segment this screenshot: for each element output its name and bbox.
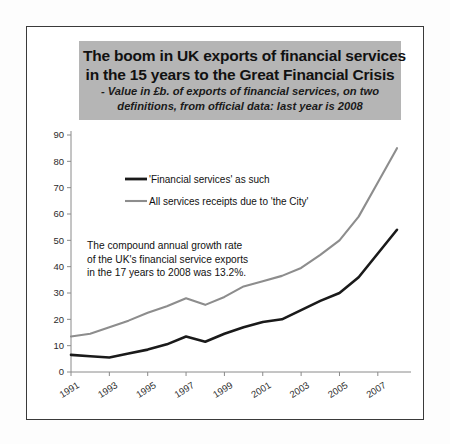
- x-tick-label: 2005: [326, 379, 350, 400]
- y-tick-label: 30: [53, 287, 64, 298]
- y-tick-label: 70: [53, 182, 64, 193]
- line-chart: 0102030405060708090 19911993199519971999…: [27, 27, 425, 421]
- x-tick-label: 1995: [134, 379, 158, 400]
- legend-label-0: 'Financial services' as such: [149, 174, 270, 185]
- x-axis-ticks: 199119931995199719992001200320052007: [57, 372, 388, 400]
- y-tick-label: 20: [53, 314, 64, 325]
- y-tick-label: 40: [53, 261, 64, 272]
- x-tick-label: 1993: [96, 379, 120, 400]
- plot-area: 0102030405060708090 19911993199519971999…: [27, 27, 425, 421]
- y-tick-label: 10: [53, 340, 64, 351]
- legend-label-1: All services receipts due to 'the City': [149, 196, 309, 207]
- y-tick-label: 90: [53, 129, 64, 140]
- y-axis-ticks: 0102030405060708090: [53, 129, 71, 377]
- growth-rate-annotation: The compound annual growth rateof the UK…: [87, 240, 248, 278]
- x-tick-label: 2003: [287, 379, 311, 400]
- chart-page: The boom in UK exports of financial serv…: [0, 0, 450, 444]
- y-tick-label: 80: [53, 156, 64, 167]
- annotation-line-0: The compound annual growth rate: [87, 240, 243, 251]
- y-tick-label: 60: [53, 208, 64, 219]
- chart-legend: 'Financial services' as suchAll services…: [125, 174, 309, 207]
- x-tick-label: 1999: [211, 379, 235, 400]
- y-tick-label: 0: [59, 366, 64, 377]
- annotation-line-2: in the 17 years to 2008 was 13.2%.: [87, 267, 246, 278]
- y-tick-label: 50: [53, 235, 64, 246]
- annotation-line-1: of the UK's financial service exports: [87, 254, 248, 265]
- x-tick-label: 2001: [249, 379, 273, 400]
- x-tick-label: 1997: [172, 379, 196, 400]
- x-tick-label: 1991: [57, 379, 81, 400]
- x-tick-label: 2007: [364, 379, 388, 400]
- chart-frame: The boom in UK exports of financial serv…: [26, 26, 424, 420]
